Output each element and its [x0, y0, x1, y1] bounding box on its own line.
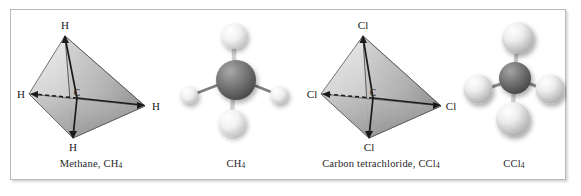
methane-tetrahedron-drawing: H H H H C	[11, 10, 171, 155]
panel-methane-tetrahedron: H H H H C Methane, CH4	[11, 10, 171, 181]
carbon-tetrachloride-tetrahedron-drawing: Cl Cl Cl Cl C	[301, 10, 461, 155]
atom-chlorine-bottom	[496, 102, 530, 136]
tetrahedron-faces	[321, 36, 441, 138]
caption-methane-name: Methane	[60, 158, 98, 169]
vertex-label-h-bottom: H	[69, 141, 77, 153]
panel-carbon-tetrachloride-ball-and-stick: CCl4	[461, 10, 567, 181]
vertex-label-cl-bottom: Cl	[364, 141, 374, 153]
chemistry-figure: H H H H C Methane, CH4	[0, 0, 581, 196]
atom-chlorine-left	[464, 75, 493, 104]
caption-methane-formula: CH	[103, 158, 118, 169]
caption-cct-name: Carbon tetrachloride	[322, 158, 413, 169]
vertex-label-cl-top: Cl	[358, 19, 368, 31]
atom-hydrogen-bottom	[219, 110, 246, 137]
atom-carbon-center	[216, 60, 256, 100]
caption-ch4-formula: CH	[227, 158, 242, 169]
center-atom-label-c: C	[370, 88, 376, 98]
vertex-label-cl-right: Cl	[446, 100, 456, 112]
figure-frame-border: H H H H C Methane, CH4	[10, 9, 566, 180]
atom-hydrogen-left	[180, 86, 198, 104]
caption-ch4: CH4	[171, 158, 301, 170]
center-atom-label-c: C	[74, 88, 80, 98]
atom-chlorine-right	[536, 75, 565, 104]
caption-ch4-subscript: 4	[242, 161, 246, 170]
vertex-label-h-top: H	[61, 19, 69, 31]
carbon-tetrachloride-ball-and-stick-drawing	[461, 10, 567, 155]
caption-methane-subscript: 4	[118, 161, 122, 170]
panel-carbon-tetrachloride-tetrahedron: Cl Cl Cl Cl C Carbon tetrachloride, CCl4	[301, 10, 461, 181]
atom-carbon-center	[499, 62, 531, 94]
caption-cct-formula: CCl	[418, 158, 436, 169]
caption-carbon-tetrachloride: Carbon tetrachloride, CCl4	[301, 158, 461, 170]
tetrahedron-faces	[29, 36, 145, 138]
vertex-label-cl-left: Cl	[307, 88, 317, 100]
caption-ccl4-formula: CCl	[503, 158, 521, 169]
vertex-label-h-left: H	[17, 88, 25, 100]
vertex-label-h-right: H	[152, 100, 160, 112]
atom-hydrogen-top	[221, 23, 247, 49]
methane-ball-and-stick-drawing	[171, 10, 301, 155]
atom-chlorine-top	[502, 22, 534, 54]
caption-cct-subscript: 4	[436, 161, 440, 170]
caption-methane: Methane, CH4	[11, 158, 171, 170]
atom-hydrogen-right	[270, 86, 288, 104]
caption-ccl4: CCl4	[461, 158, 567, 170]
panel-methane-ball-and-stick: CH4	[171, 10, 301, 181]
caption-ccl4-subscript: 4	[521, 161, 525, 170]
